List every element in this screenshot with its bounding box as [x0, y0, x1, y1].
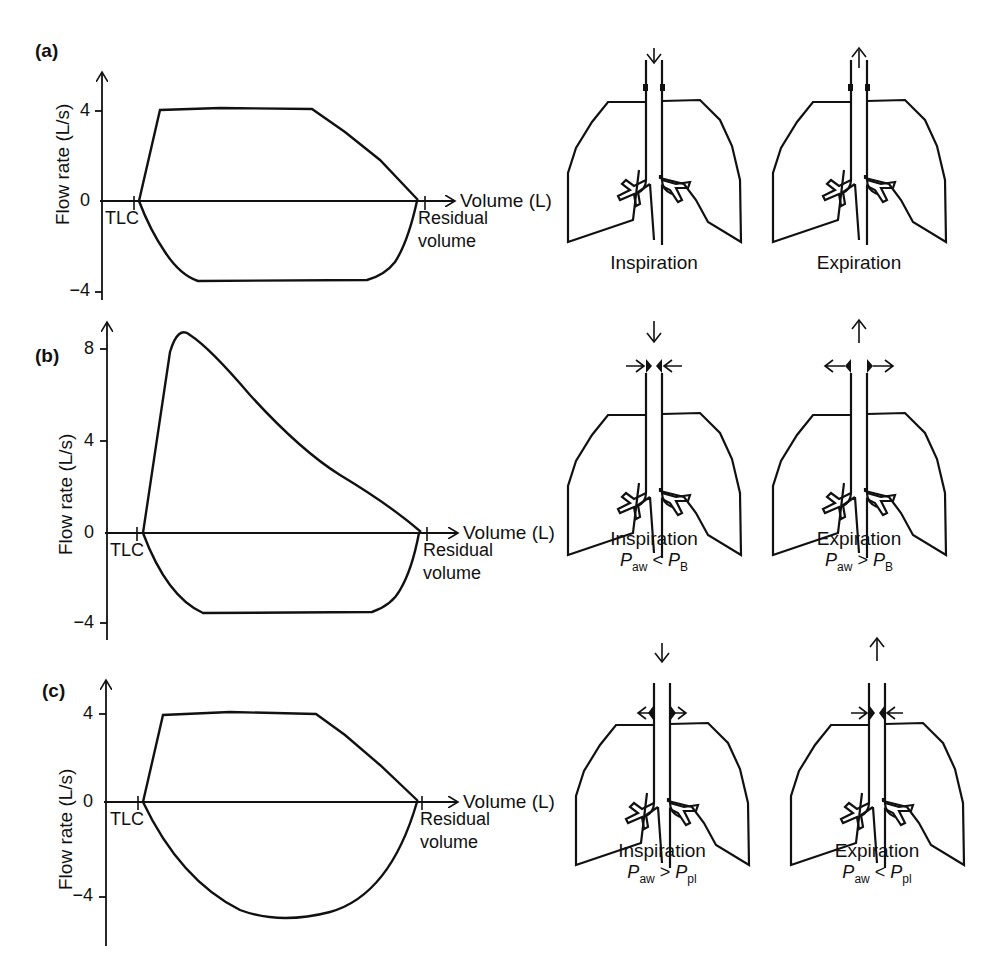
caption-b-inspiration: Inspiration [574, 528, 734, 550]
equation-b-inspiration: Paw < PB [574, 550, 734, 574]
caption-b-expiration: Expiration [779, 528, 939, 550]
rv-label-b-2: volume [423, 562, 481, 584]
tlc-label-c: TLC [110, 808, 144, 830]
rv-label-c-2: volume [420, 831, 478, 853]
tick-c-0: 0 [63, 791, 93, 812]
caption-c-inspiration: Inspiration [582, 840, 742, 862]
rv-label-b-1: Residual [423, 539, 493, 561]
tlc-label-a: TLC [105, 207, 139, 229]
tick-b-8: 8 [64, 338, 94, 359]
y-axis-label-c: Flow rate (L/s) [55, 769, 77, 890]
panel-label-a: (a) [35, 40, 58, 62]
tick-b-0: 0 [64, 522, 94, 543]
tick-a-neg4: −4 [60, 280, 90, 301]
panel-label-c: (c) [42, 680, 65, 702]
equation-b-expiration: Paw > PB [779, 550, 939, 574]
tick-a-0: 0 [60, 190, 90, 211]
caption-c-expiration: Expiration [797, 840, 957, 862]
rv-label-a-1: Residual [418, 207, 488, 229]
chart-panel-b [100, 320, 946, 640]
panel-label-b: (b) [35, 345, 59, 367]
equation-c-expiration: Paw < Ppl [797, 862, 957, 886]
tick-c-neg4: −4 [63, 885, 93, 906]
rv-label-c-1: Residual [420, 808, 490, 830]
tick-b-neg4: −4 [64, 612, 94, 633]
tick-c-4: 4 [63, 703, 93, 724]
tick-b-4: 4 [64, 430, 94, 451]
caption-a-inspiration: Inspiration [574, 252, 734, 274]
tlc-label-b: TLC [110, 539, 144, 561]
equation-c-inspiration: Paw > Ppl [582, 862, 742, 886]
figure-canvas [0, 0, 1001, 964]
rv-label-a-2: volume [418, 230, 476, 252]
caption-a-expiration: Expiration [779, 252, 939, 274]
tick-a-4: 4 [60, 100, 90, 121]
